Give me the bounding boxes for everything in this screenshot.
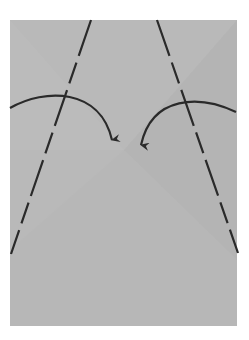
origami-diagram (0, 0, 249, 340)
diagram-canvas (0, 0, 249, 340)
